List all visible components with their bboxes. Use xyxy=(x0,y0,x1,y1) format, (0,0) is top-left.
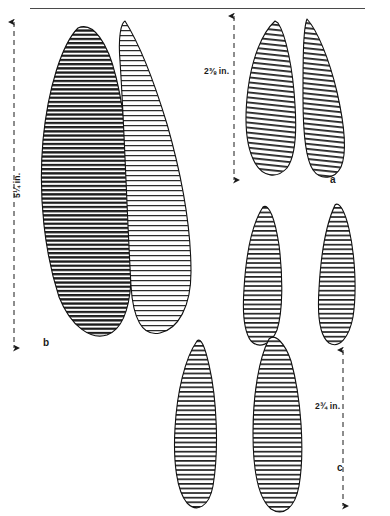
dimension-label-b: 5¼ in. xyxy=(13,173,22,198)
figure-label-a: a xyxy=(330,175,336,185)
dimension-label-c: 2¾ in. xyxy=(315,402,340,411)
dimension-label-a: 2⅜ in. xyxy=(204,67,229,76)
figure-label-c: c xyxy=(337,463,343,473)
figure-label-b: b xyxy=(43,338,49,348)
illustration-plate xyxy=(0,0,390,516)
